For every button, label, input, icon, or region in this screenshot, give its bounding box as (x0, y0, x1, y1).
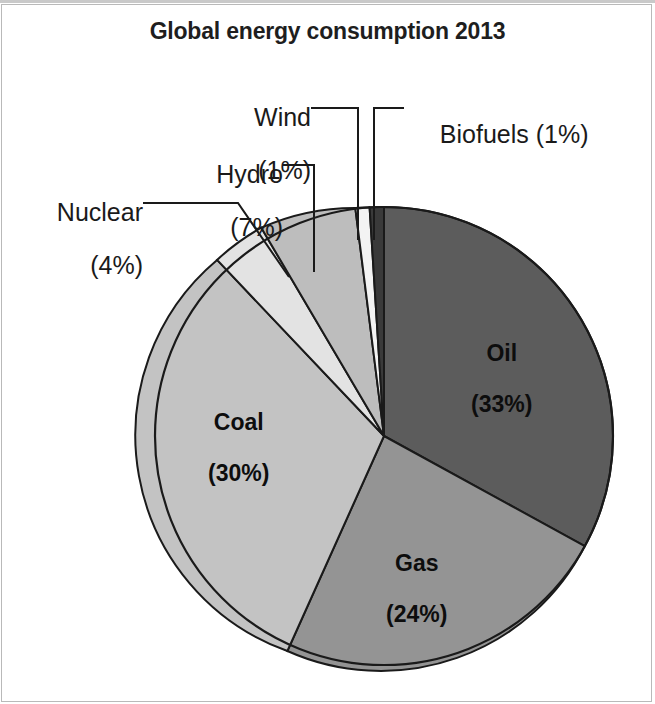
callout-label-wind: Wind (1%) (150, 77, 311, 211)
slice-label-coal: Coal (30%) (183, 385, 270, 511)
slice-label-gas-name: Gas (395, 550, 438, 576)
callout-label-biofuels-name: Biofuels (1%) (440, 120, 589, 148)
chart-page: Global energy consumption 2013 Oil (33%) (0, 0, 655, 704)
callout-label-wind-name: Wind (254, 103, 311, 131)
callout-label-hydro-percent: (7%) (230, 213, 283, 241)
callout-label-biofuels: Biofuels (1%) (412, 94, 642, 174)
slice-label-oil-name: Oil (486, 340, 517, 366)
slice-label-coal-name: Coal (214, 409, 264, 435)
slice-label-oil: Oil (33%) (446, 316, 533, 442)
slice-label-gas: Gas (24%) (361, 526, 448, 652)
callout-label-wind-percent: (1%) (258, 156, 311, 184)
slice-label-gas-percent: (24%) (386, 601, 447, 627)
slice-label-oil-percent: (33%) (471, 391, 532, 417)
slice-label-coal-percent: (30%) (208, 460, 269, 486)
